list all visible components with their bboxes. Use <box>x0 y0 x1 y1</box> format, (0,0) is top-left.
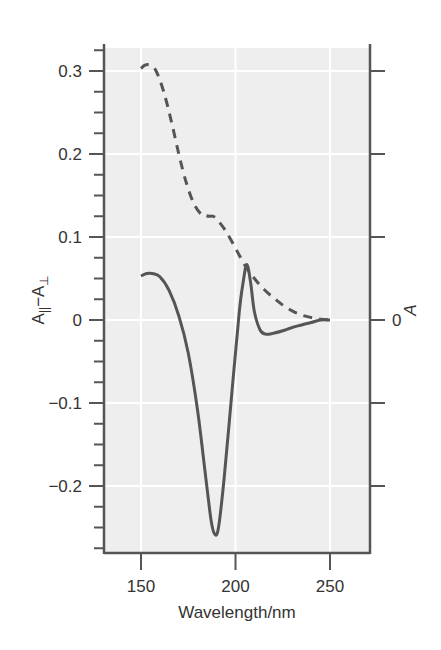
y-tick-label: −0.2 <box>48 477 82 496</box>
chart: 0.30.20.10−0.1−0.2150200250 Wavelength/n… <box>0 0 441 650</box>
y-tick-label: 0.2 <box>58 145 82 164</box>
y-tick-label: 0.3 <box>58 62 82 81</box>
y-axis-title-a: A <box>29 312 48 324</box>
svg-text:A: A <box>401 304 420 316</box>
y-tick-label: 0 <box>73 311 82 330</box>
y-axis-title: A||−A⊥ <box>29 276 51 325</box>
x-tick-label: 150 <box>127 577 155 596</box>
x-tick-label: 200 <box>221 577 249 596</box>
y-axis-title-sub-perp: ⊥ <box>37 276 51 286</box>
y-tick-label: −0.1 <box>48 394 82 413</box>
x-axis-title: Wavelength/nm <box>178 603 295 622</box>
y-tick-label: 0.1 <box>58 228 82 247</box>
right-axis-title: A <box>401 304 420 316</box>
y-axis-title-minus-a: −A <box>29 285 48 307</box>
svg-text:A||−A⊥: A||−A⊥ <box>29 276 51 325</box>
x-tick-label: 250 <box>316 577 344 596</box>
